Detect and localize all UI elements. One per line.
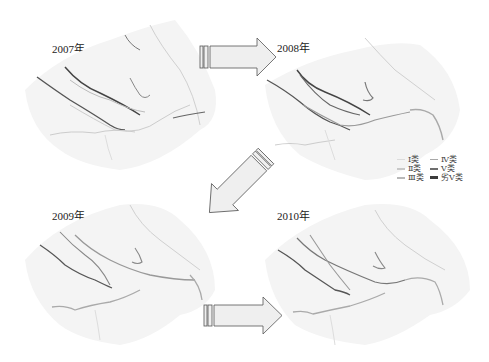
legend-label-class-5: Ⅴ类 — [441, 164, 455, 173]
legend-item-class-3: Ⅲ类 — [397, 173, 430, 182]
map-panel-2010: 2010年 — [245, 190, 489, 362]
legend-item-class-5: Ⅴ类 — [430, 164, 463, 173]
legend-item-class-2: Ⅱ类 — [397, 164, 430, 173]
legend-row-1: Ⅰ类 Ⅳ类 — [397, 155, 463, 164]
legend-row-3: Ⅲ类 劣Ⅴ类 — [397, 173, 463, 182]
legend-swatch-class-2 — [397, 168, 405, 170]
legend-swatch-class-1 — [397, 159, 405, 160]
legend-swatch-class-5 — [430, 168, 438, 170]
legend-swatch-worse-than-class-5 — [430, 176, 438, 179]
legend-item-class-4: Ⅳ类 — [430, 155, 463, 164]
legend-swatch-class-3 — [397, 177, 405, 179]
river-map-2010 — [245, 190, 489, 362]
water-quality-legend: Ⅰ类 Ⅳ类 Ⅱ类 Ⅴ类 Ⅲ类 劣Ⅴ类 — [397, 155, 463, 182]
legend-label-class-2: Ⅱ类 — [408, 164, 421, 173]
legend-label-class-4: Ⅳ类 — [441, 155, 457, 164]
legend-item-class-1: Ⅰ类 — [397, 155, 430, 164]
legend-label-class-3: Ⅲ类 — [408, 173, 424, 182]
legend-item-worse-than-class-5: 劣Ⅴ类 — [430, 173, 463, 182]
legend-row-2: Ⅱ类 Ⅴ类 — [397, 164, 463, 173]
legend-label-class-1: Ⅰ类 — [408, 155, 419, 164]
legend-swatch-class-4 — [430, 159, 438, 160]
legend-label-worse-than-class-5: 劣Ⅴ类 — [441, 173, 463, 182]
